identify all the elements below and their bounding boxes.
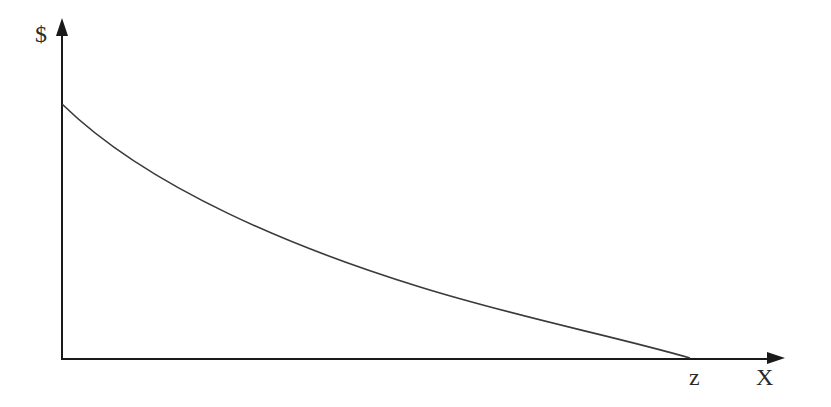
y-axis-label: $ <box>35 22 47 46</box>
chart-svg <box>0 0 831 407</box>
x-axis-arrow-icon <box>767 352 785 364</box>
x-intercept-label: z <box>689 365 700 389</box>
demand-curve <box>62 104 690 358</box>
x-axis-label: X <box>756 365 773 389</box>
chart-area: $ z X <box>0 0 831 407</box>
y-axis-arrow-icon <box>56 18 68 36</box>
